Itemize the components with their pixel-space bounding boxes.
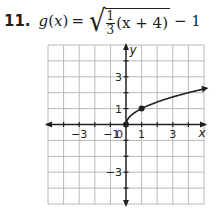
graph: −3−101331−3xy <box>0 0 221 212</box>
data-point <box>123 122 129 128</box>
y-axis-label: y <box>128 43 137 57</box>
data-point <box>139 106 145 112</box>
y-tick-label: −3 <box>106 166 122 179</box>
x-axis-label: x <box>197 126 206 140</box>
curve-arrow-icon <box>201 86 208 93</box>
y-axis-arrow-up-icon <box>123 43 129 50</box>
y-tick-label: 1 <box>115 103 122 116</box>
x-tick-label: −3 <box>71 128 87 141</box>
origin-label: 0 <box>116 128 123 141</box>
function-curve <box>126 89 202 124</box>
y-tick-label: 3 <box>115 71 122 84</box>
x-tick-label: 3 <box>169 128 176 141</box>
tick-labels: −3−101331−3xy <box>71 43 206 179</box>
x-tick-label: 1 <box>138 128 145 141</box>
